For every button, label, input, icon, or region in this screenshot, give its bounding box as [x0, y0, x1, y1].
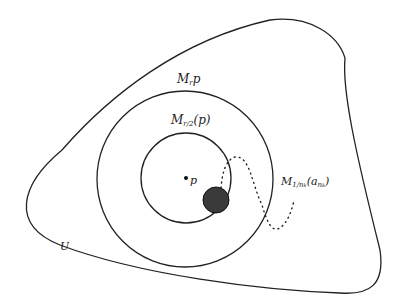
inner-circle-label: Mr/2(p) [171, 113, 211, 128]
path-label: M1/nk(ank) [281, 175, 329, 189]
diagram-canvas: Mrp Mr/2(p) p M1/nk(ank) U [0, 0, 402, 307]
region-u-boundary [26, 19, 381, 293]
outer-circle-label: Mrp [177, 72, 200, 87]
dotted-path [221, 157, 294, 229]
dark-ball [203, 187, 229, 213]
center-point [184, 176, 188, 180]
region-u-label: U [60, 240, 69, 253]
point-p-label: p [190, 174, 197, 187]
diagram-svg [0, 0, 402, 307]
